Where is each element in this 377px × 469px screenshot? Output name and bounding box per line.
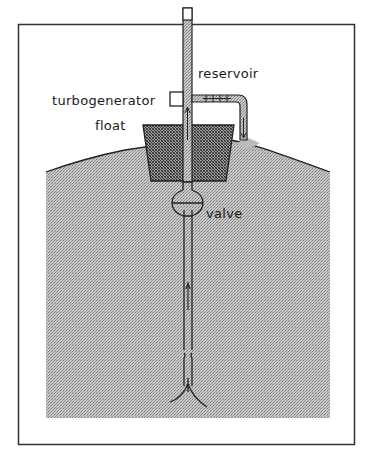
label-float: float <box>95 118 126 133</box>
turbogenerator <box>170 92 183 106</box>
label-turbogenerator: turbogenerator <box>52 93 156 108</box>
label-reservoir: reservoir <box>198 66 259 81</box>
diagram-canvas: reservoir turbogenerator float valve <box>0 0 377 469</box>
reservoir <box>183 8 192 20</box>
label-valve: valve <box>206 206 242 221</box>
main-pipe-upper <box>183 8 192 182</box>
